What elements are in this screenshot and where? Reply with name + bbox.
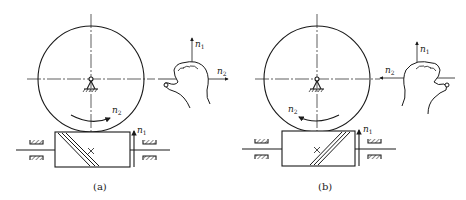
left-hand-rule-icon [380,42,455,114]
panel-a [16,14,228,167]
caption-b: (b) [318,181,332,192]
caption-a: (a) [93,181,107,192]
gear-rotation-arrow [299,115,339,121]
hand-side-label-a: n2 [217,66,227,77]
worm-gear-diagram: n2 n1 n1 n2 (a) [0,0,466,200]
gear-speed-label-b: n2 [288,104,298,115]
gear-speed-label-a: n2 [112,105,122,116]
worm-speed-label-a: n1 [137,125,147,136]
hand-up-label-b: n1 [420,44,430,55]
worm-speed-label-b: n1 [363,124,373,135]
hand-up-label-a: n1 [195,39,205,50]
panel-b [242,14,455,166]
hand-side-label-b: n2 [385,65,395,76]
gear-rotation-arrow [71,115,110,121]
